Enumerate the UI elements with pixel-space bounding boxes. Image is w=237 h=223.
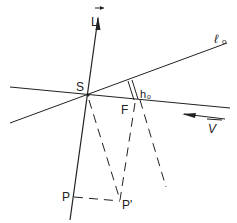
label-v: V (208, 122, 217, 136)
label-l: L (91, 15, 98, 29)
label-l0-sub: o (222, 37, 227, 46)
point-s (86, 93, 89, 96)
dashed-projections (74, 100, 166, 201)
label-p: P (62, 190, 70, 204)
label-l0: ℓ (214, 32, 219, 46)
v-vector (182, 113, 225, 120)
line-horizontal (10, 87, 230, 108)
line-l0 (10, 43, 227, 123)
diagram-canvas: L ℓ o S h o F V P P' (0, 0, 237, 223)
v-vector-bar-icon (207, 119, 222, 120)
label-h0-sub: o (147, 93, 151, 100)
h0-marker (128, 80, 138, 100)
label-f: F (121, 103, 128, 117)
label-p-prime: P' (122, 198, 132, 212)
label-s: S (76, 80, 84, 94)
label-h0: h (140, 88, 146, 100)
l-axis (70, 6, 104, 220)
